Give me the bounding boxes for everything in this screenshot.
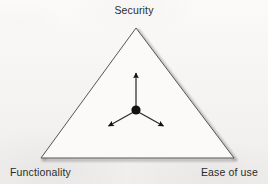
vertex-label-security: Security bbox=[0, 4, 268, 16]
vertex-label-ease-of-use: Ease of use bbox=[201, 166, 258, 178]
vertex-label-functionality: Functionality bbox=[10, 166, 71, 178]
triangle-outline bbox=[41, 28, 234, 158]
center-dot bbox=[131, 105, 140, 114]
triangle-tradeoff-diagram bbox=[0, 0, 268, 184]
figure-canvas: Security Functionality Ease of use bbox=[0, 0, 268, 184]
